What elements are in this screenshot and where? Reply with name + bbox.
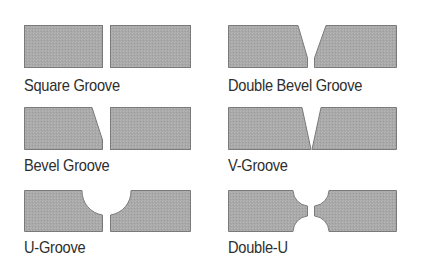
bevel-groove-left-plate	[25, 108, 103, 150]
u-groove-label: U-Groove	[24, 239, 85, 256]
weld-joint-diagram	[0, 0, 423, 271]
bevel-groove-label: Bevel Groove	[24, 157, 109, 174]
double-bevel-left-plate	[229, 26, 308, 68]
double-u-right-plate	[315, 191, 397, 232]
double-u-left-plate	[229, 191, 308, 232]
square-groove-right-plate	[111, 26, 191, 68]
u-groove-right-plate	[111, 191, 191, 232]
double-bevel-groove-label: Double Bevel Groove	[228, 77, 362, 94]
square-groove-left-plate	[25, 26, 103, 68]
u-groove-shape	[25, 191, 191, 232]
u-groove-left-plate	[25, 191, 103, 232]
v-groove-shape	[229, 108, 397, 150]
square-groove-label: Square Groove	[24, 77, 120, 94]
bevel-groove-right-plate	[111, 108, 191, 150]
double-u-label: Double-U	[228, 239, 288, 256]
double-bevel-groove-shape	[229, 26, 397, 68]
v-groove-right-plate	[312, 108, 397, 150]
square-groove-shape	[25, 26, 191, 68]
double-bevel-right-plate	[315, 26, 397, 68]
bevel-groove-shape	[25, 108, 191, 150]
double-u-shape	[229, 191, 397, 232]
v-groove-left-plate	[229, 108, 312, 150]
v-groove-label: V-Groove	[228, 157, 288, 174]
